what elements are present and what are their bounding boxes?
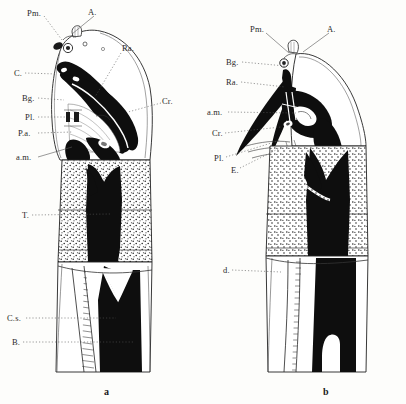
figure-caption-b: b xyxy=(323,386,329,397)
label-cr-fig-a: Cr. xyxy=(162,97,173,106)
illustration-plate xyxy=(0,0,406,404)
label-am-fig-b: a.m. xyxy=(207,108,222,117)
label-ra-fig-a: Ra. xyxy=(122,44,134,53)
label-cr-fig-b: Cr. xyxy=(212,129,223,138)
label-t-fig-a: T. xyxy=(22,211,29,220)
leader-line-pm xyxy=(266,33,289,53)
leader-line-c xyxy=(25,73,57,74)
label-pl-fig-a: Pl. xyxy=(25,113,35,122)
figure-a xyxy=(52,26,153,372)
label-ra-fig-b: Ra. xyxy=(226,78,238,87)
thorax-segment-b xyxy=(266,146,368,256)
figure-b xyxy=(236,40,368,372)
leader-line-bg xyxy=(242,62,285,66)
thorax-segment-a xyxy=(58,160,152,262)
lower-body-a xyxy=(56,262,152,372)
label-pm-fig-b: Pm. xyxy=(250,25,264,34)
lower-body-b xyxy=(266,256,368,372)
proboscis-apex-b xyxy=(288,40,298,53)
label-pm-fig-a: Pm. xyxy=(27,9,41,18)
label-b-fig-a: B. xyxy=(12,338,20,347)
label-a-fig-a: A. xyxy=(88,8,97,17)
label-cs-fig-a: C.s. xyxy=(7,314,21,323)
label-e-fig-b: E. xyxy=(231,166,239,175)
label-pa-fig-a: P.a. xyxy=(18,129,31,138)
label-am-fig-a: a.m. xyxy=(16,153,31,162)
label-bg-fig-a: Bg. xyxy=(22,94,35,103)
leader-line-a xyxy=(303,33,329,52)
leader-line-ra xyxy=(241,82,285,87)
label-bg-fig-b: Bg. xyxy=(226,58,239,67)
label-c-fig-a: C. xyxy=(14,69,22,78)
anatomical-drawing xyxy=(0,0,406,404)
leader-line-pm xyxy=(44,16,62,40)
figure-caption-a: a xyxy=(104,386,109,397)
label-pl-fig-b: Pl. xyxy=(214,154,224,163)
label-d-fig-b: d. xyxy=(223,266,230,275)
label-a-fig-b: A. xyxy=(327,25,336,34)
